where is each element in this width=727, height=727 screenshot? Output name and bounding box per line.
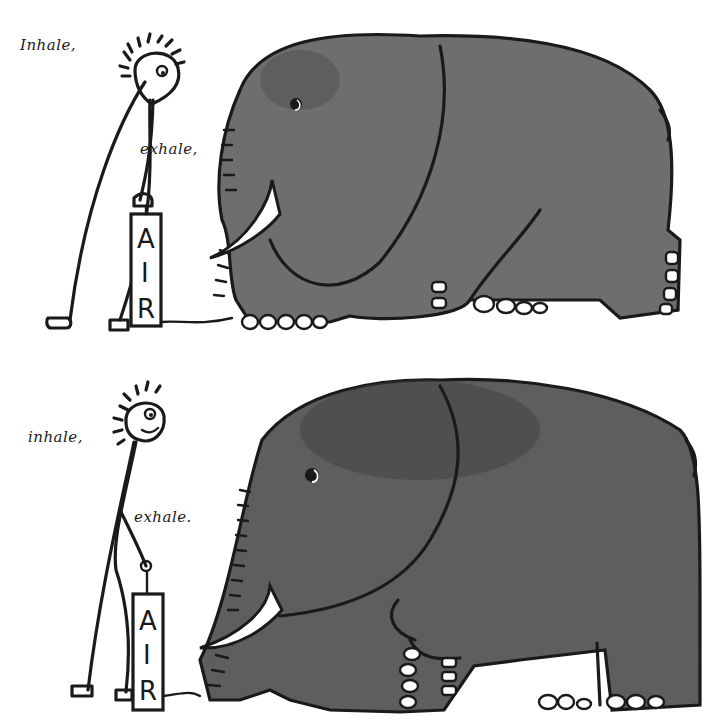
pump-letter-i: I xyxy=(141,258,149,288)
scene-top: A I R xyxy=(0,0,727,350)
panel-top: Inhale, exhale, A I R xyxy=(0,0,727,350)
pump-letter-a: A xyxy=(139,606,157,636)
elephant-large-icon xyxy=(200,379,700,712)
stick-figure-icon xyxy=(47,34,184,330)
elephant-small-icon xyxy=(210,34,680,329)
air-pump-icon: A I R xyxy=(133,572,200,710)
panel-bottom: inhale, exhale. A I R xyxy=(0,360,727,727)
air-pump-icon: A I R xyxy=(131,206,232,326)
pump-letter-a: A xyxy=(137,224,155,254)
pump-letter-r: R xyxy=(139,676,157,706)
pump-letter-i: I xyxy=(143,640,151,670)
scene-bottom: A I R xyxy=(0,360,727,727)
pump-letter-r: R xyxy=(137,294,155,324)
